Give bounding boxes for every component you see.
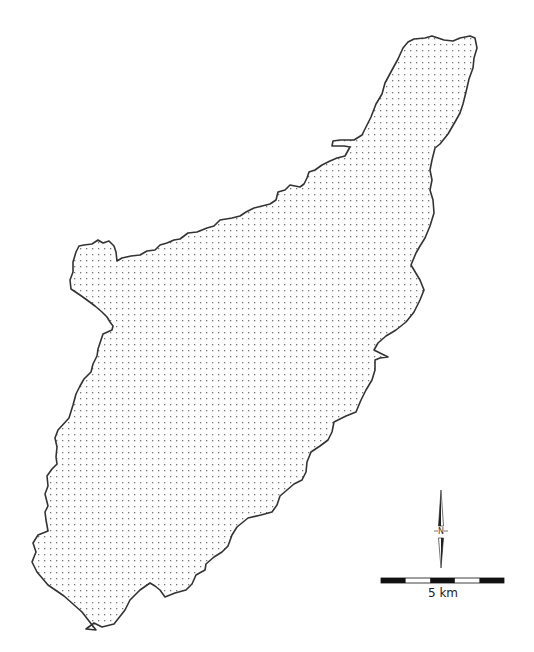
- scale-bar-label: 5 km: [413, 586, 473, 600]
- region-boundary: [32, 36, 477, 630]
- scale-segment-1: [381, 578, 406, 583]
- scale-segment-5: [479, 578, 504, 583]
- north-arrow-icon: N: [434, 490, 448, 568]
- scale-bar: [381, 578, 504, 583]
- scale-segment-3: [430, 578, 455, 583]
- north-label: N: [438, 527, 444, 536]
- map-canvas: N: [0, 0, 534, 652]
